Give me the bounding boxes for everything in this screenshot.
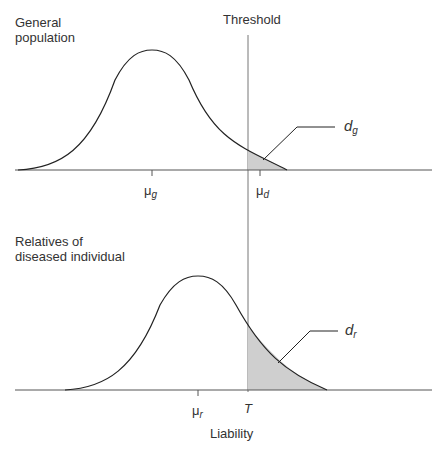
dg-label: dg [344, 118, 358, 135]
dg-leader-line [263, 127, 335, 160]
x-axis-label-liability: Liability [210, 426, 253, 441]
dr-leader-line [278, 331, 338, 363]
panel-title-relatives: Relatives of diseased individual [15, 234, 125, 264]
relatives-shaded-tail [248, 327, 327, 390]
general-population-curve [18, 50, 287, 170]
panel-title-general-population: General population [15, 15, 75, 45]
mu-g-label: μg [144, 183, 157, 199]
liability-threshold-diagram [0, 0, 445, 452]
mu-r-label: μr [192, 403, 203, 419]
mu-d-label: μd [256, 183, 269, 199]
threshold-label: Threshold [223, 12, 281, 27]
dr-label: dr [345, 322, 357, 339]
threshold-t-label: T [244, 401, 252, 416]
